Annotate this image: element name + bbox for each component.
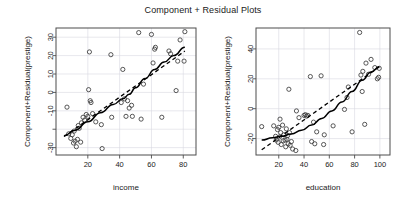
data-point [287,87,291,91]
data-points [65,30,187,151]
data-point [127,106,131,110]
data-point [99,123,103,127]
data-point [322,142,326,146]
x-axis-label: education [306,183,341,192]
x-tick-label: 20 [275,160,283,169]
data-point [363,122,367,126]
data-point [137,31,141,35]
data-point [364,61,368,65]
data-point [360,89,364,93]
axis-ticks: 20406080-30-100102030 [46,33,188,169]
data-point [358,30,362,34]
linear-fit-line [64,51,185,137]
data-point [130,114,134,118]
data-point [315,130,319,134]
data-point [182,59,186,63]
axis-ticks: 20406080100-2002040 [246,45,387,169]
data-point [284,127,288,131]
data-point [294,109,298,113]
data-point [110,115,114,119]
data-point [129,103,133,107]
data-point [121,67,125,71]
x-tick-label: 60 [147,160,155,169]
data-point [331,124,335,128]
data-point [160,115,164,119]
data-point [176,59,180,63]
data-point [272,124,276,128]
data-point [350,130,354,134]
x-tick-label: 100 [374,160,387,169]
page-title: Component + Residual Plots [0,5,406,15]
y-tick-label: 20 [46,51,55,59]
data-point [109,53,113,57]
y-tick-label: 40 [246,45,255,53]
panel-education-canvas: 20406080100-2002040educationComponent+Re… [200,18,406,199]
data-point [361,69,365,73]
y-tick-label: -10 [46,105,55,116]
x-tick-label: 20 [84,160,92,169]
data-point [297,116,301,120]
y-axis-label: Component+Residual(prestige) [23,36,32,147]
y-tick-label: 20 [246,75,255,83]
data-point [174,88,178,92]
data-point [322,133,326,137]
component-residual-plots-figure: Component + Residual Plots 20406080-30-1… [0,0,406,199]
data-point [124,114,128,118]
y-axis-label: Component+Residual(prestige) [223,36,232,147]
y-tick-label: -20 [246,133,255,144]
x-tick-label: 80 [350,160,358,169]
x-tick-label: 80 [179,160,187,169]
data-point [141,82,145,86]
data-point [87,88,91,92]
panel-income-canvas: 20406080-30-100102030incomeComponent+Res… [0,18,205,199]
data-point [94,120,98,124]
x-tick-label: 40 [115,160,123,169]
panel-education: 20406080100-2002040educationComponent+Re… [200,18,406,199]
x-tick-label: 40 [300,160,308,169]
data-point [319,74,323,78]
data-point [289,139,293,143]
data-point [313,142,317,146]
data-point [342,107,346,111]
data-point [178,38,182,42]
x-axis-label: income [113,183,139,192]
plot-frame [56,28,196,155]
gridlines [56,28,196,155]
loess-smooth-line [64,47,185,135]
y-tick-label: -30 [46,142,55,153]
data-point [74,145,78,149]
data-point [79,140,83,144]
y-tick-label: 30 [46,33,55,41]
y-tick-label: 10 [46,70,55,78]
data-point [100,146,104,150]
linear-fit-line [262,67,380,150]
data-point [260,125,264,129]
data-point [65,105,69,109]
data-point [308,74,312,78]
y-tick-label: 0 [246,107,255,111]
data-point [139,117,143,121]
data-point [280,123,284,127]
y-tick-label: 0 [46,90,55,94]
x-tick-label: 60 [325,160,333,169]
panel-income: 20406080-30-100102030incomeComponent+Res… [0,18,205,199]
data-point [369,57,373,61]
